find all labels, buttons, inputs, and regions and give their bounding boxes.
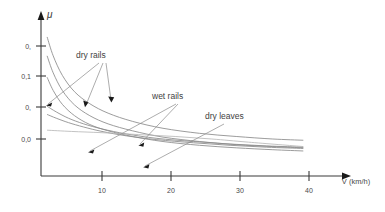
y-tick-label-3: 0, [25, 104, 31, 111]
annotation-dry-leaves: dry leaves [205, 111, 244, 121]
leader-arrowhead-dry-rails-3 [108, 97, 114, 103]
friction-coefficient-chart: 0, 0,1 0, 0,0 10 20 30 40 μ V (km/h) [0, 0, 385, 212]
tick-labels-group: 0, 0,1 0, 0,0 10 20 30 40 [21, 43, 313, 194]
leader-wet-rails-2 [140, 104, 178, 144]
leader-arrowhead-dry-leaves-1 [143, 164, 149, 168]
y-tick-label-1: 0, [25, 43, 31, 50]
x-tick-label-1: 10 [98, 187, 106, 194]
x-tick-label-2: 20 [167, 187, 175, 194]
leader-dry-rails-1 [48, 63, 99, 104]
annotation-dry-rails: dry rails [76, 50, 106, 60]
leader-dry-rails-3 [106, 63, 111, 100]
y-axis-arrowhead [38, 11, 45, 20]
leader-dry-leaves-1 [145, 124, 224, 166]
chart-svg: 0, 0,1 0, 0,0 10 20 30 40 μ V (km/h) [0, 0, 385, 212]
annotation-wet-rails: wet rails [151, 91, 183, 101]
y-axis-title-mu: μ [46, 9, 53, 20]
axes-group [36, 11, 351, 181]
y-tick-label-4: 0,0 [21, 136, 31, 143]
annotation-leaders-group [46, 63, 224, 168]
leader-dry-rails-2 [86, 63, 103, 105]
x-tick-label-4: 40 [305, 187, 313, 194]
y-tick-label-2: 0,1 [21, 73, 31, 80]
x-tick-label-3: 30 [236, 187, 244, 194]
x-axis-title: V (km/h) [342, 177, 371, 186]
